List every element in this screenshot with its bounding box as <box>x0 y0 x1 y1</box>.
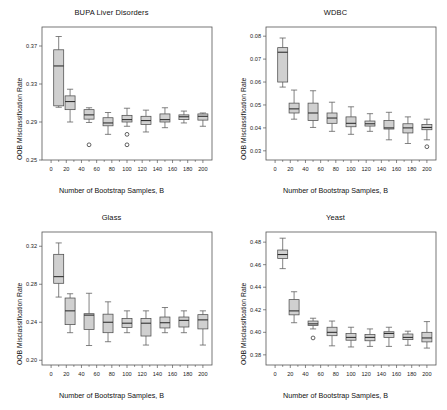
outlier-point <box>311 336 315 340</box>
x-tick-label: 100 <box>346 371 355 377</box>
box-iqr <box>179 317 189 327</box>
x-tick-label: 120 <box>362 166 371 172</box>
x-tick-label: 100 <box>122 166 131 172</box>
boxplot-box <box>422 322 432 348</box>
plot-area: 0.250.290.330.37020406080100120140160180… <box>0 0 223 205</box>
x-tick-label: 160 <box>392 371 401 377</box>
x-tick-label: 200 <box>422 166 431 172</box>
x-axis-label: Number of Bootstrap Samples, B <box>224 391 447 400</box>
y-tick-label: 0.06 <box>250 79 261 85</box>
boxplot-box <box>65 89 75 122</box>
x-tick-label: 100 <box>346 166 355 172</box>
boxplot-box <box>384 327 394 346</box>
y-tick-label: 0.42 <box>250 307 261 313</box>
box-iqr <box>384 332 394 338</box>
x-tick-label: 160 <box>168 371 177 377</box>
boxplot-figure: BUPA Liver Disorders OOB Misclassificati… <box>0 0 447 410</box>
x-tick-label: 80 <box>109 166 115 172</box>
box-iqr <box>278 48 288 82</box>
y-tick-label: 0.07 <box>250 56 261 62</box>
plot-frame <box>266 27 436 160</box>
x-tick-label: 0 <box>50 166 53 172</box>
boxplot-box <box>160 108 170 128</box>
x-tick-label: 60 <box>318 371 324 377</box>
boxplot-box <box>179 111 189 123</box>
x-tick-label: 160 <box>392 166 401 172</box>
x-tick-label: 40 <box>78 371 84 377</box>
x-tick-label: 20 <box>287 166 293 172</box>
boxplot-box <box>122 108 132 146</box>
outlier-point <box>87 143 91 147</box>
x-axis-label: Number of Bootstrap Samples, B <box>0 391 223 400</box>
x-tick-label: 140 <box>153 371 162 377</box>
box-iqr <box>54 50 64 106</box>
y-tick-label: 0.20 <box>26 357 37 363</box>
x-axis-label: Number of Bootstrap Samples, B <box>0 186 223 195</box>
boxplot-box <box>365 114 375 132</box>
y-tick-label: 0.25 <box>26 157 37 163</box>
outlier-point <box>125 143 129 147</box>
x-tick-label: 120 <box>362 371 371 377</box>
panel-bupa-liver-disorders: BUPA Liver Disorders OOB Misclassificati… <box>0 0 223 205</box>
box-iqr <box>54 254 64 283</box>
boxplot-box <box>384 112 394 140</box>
x-tick-label: 200 <box>422 371 431 377</box>
x-tick-label: 20 <box>63 166 69 172</box>
box-iqr <box>141 318 151 336</box>
x-tick-label: 180 <box>183 371 192 377</box>
boxplot-box <box>278 238 288 268</box>
y-tick-label: 0.48 <box>250 239 261 245</box>
boxplot-box <box>122 311 132 333</box>
boxplot-box <box>365 329 375 346</box>
x-tick-label: 140 <box>377 166 386 172</box>
y-tick-label: 0.32 <box>26 243 37 249</box>
y-tick-label: 0.24 <box>26 319 37 325</box>
y-tick-label: 0.05 <box>250 102 261 108</box>
x-tick-label: 200 <box>198 166 207 172</box>
boxplot-box <box>346 327 356 347</box>
box-iqr <box>198 114 208 120</box>
box-iqr <box>289 300 299 315</box>
outlier-point <box>125 132 129 136</box>
boxplot-box <box>289 292 299 323</box>
boxplot-box <box>198 311 208 345</box>
x-tick-label: 20 <box>287 371 293 377</box>
box-iqr <box>103 118 113 126</box>
boxplot-box <box>84 293 94 345</box>
y-tick-label: 0.03 <box>250 148 261 154</box>
box-iqr <box>422 332 432 342</box>
x-tick-label: 40 <box>78 166 84 172</box>
x-tick-label: 60 <box>94 371 100 377</box>
boxplot-box <box>327 102 337 131</box>
boxplot-box <box>141 311 151 345</box>
x-tick-label: 0 <box>274 371 277 377</box>
boxplot-box <box>278 38 288 87</box>
boxplot-box <box>103 302 113 342</box>
plot-area: 0.200.240.280.32020406080100120140160180… <box>0 205 223 410</box>
y-tick-label: 0.04 <box>250 125 261 131</box>
boxplot-box <box>141 110 151 132</box>
plot-area: 0.380.400.420.440.460.480204060801001201… <box>224 205 447 410</box>
box-iqr <box>84 314 94 330</box>
box-iqr <box>308 103 318 120</box>
y-tick-label: 0.08 <box>250 33 261 39</box>
x-tick-label: 60 <box>318 166 324 172</box>
boxplot-box <box>160 308 170 333</box>
y-tick-label: 0.29 <box>26 119 37 125</box>
panel-wdbc: WDBC OOB Misclassification Rate 0.030.04… <box>224 0 447 205</box>
boxplot-box <box>54 243 64 297</box>
x-tick-label: 40 <box>302 166 308 172</box>
boxplot-box <box>179 311 189 333</box>
plot-area: 0.030.040.050.060.070.080204060801001201… <box>224 0 447 205</box>
boxplot-box <box>346 107 356 135</box>
box-iqr <box>160 114 170 122</box>
x-tick-label: 0 <box>274 166 277 172</box>
x-tick-label: 200 <box>198 371 207 377</box>
x-tick-label: 0 <box>50 371 53 377</box>
x-tick-label: 100 <box>122 371 131 377</box>
x-tick-label: 120 <box>138 166 147 172</box>
boxplot-box <box>84 108 94 147</box>
panel-glass: Glass OOB Misclassification Rate 0.200.2… <box>0 205 223 410</box>
box-iqr <box>65 96 75 110</box>
y-tick-label: 0.37 <box>26 43 37 49</box>
